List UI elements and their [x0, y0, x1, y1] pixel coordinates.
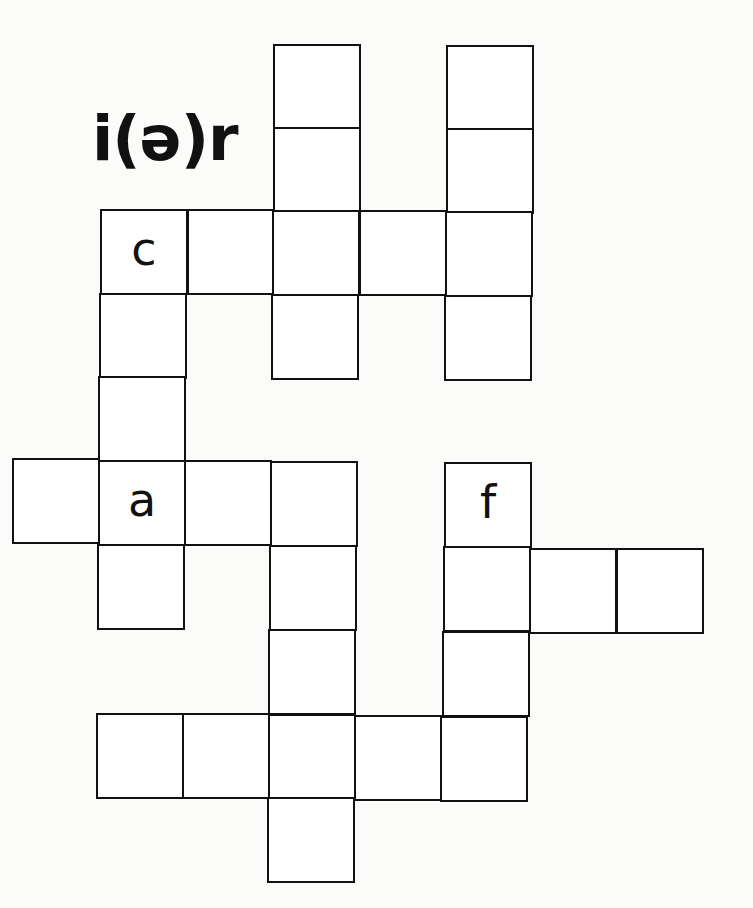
crossword-cell[interactable]	[270, 461, 358, 547]
crossword-cell[interactable]	[273, 127, 361, 213]
crossword-cell[interactable]	[268, 714, 356, 800]
crossword-cell[interactable]	[99, 293, 187, 379]
crossword-cell[interactable]	[616, 548, 704, 634]
crossword-cell[interactable]	[354, 715, 442, 801]
crossword-cell-prefilled: f	[444, 462, 532, 548]
crossword-grid: caf	[0, 0, 753, 908]
crossword-cell[interactable]	[445, 211, 533, 297]
crossword-cell[interactable]	[97, 544, 185, 630]
crossword-cell[interactable]	[96, 713, 184, 799]
crossword-cell[interactable]	[529, 548, 617, 634]
crossword-cell[interactable]	[444, 295, 532, 381]
crossword-cell[interactable]	[440, 716, 528, 802]
crossword-cell[interactable]	[184, 460, 272, 546]
crossword-cell[interactable]	[267, 797, 355, 883]
crossword-cell[interactable]	[446, 45, 534, 131]
crossword-cell[interactable]	[271, 294, 359, 380]
crossword-cell[interactable]	[442, 631, 530, 717]
crossword-cell-prefilled: a	[98, 460, 186, 546]
crossword-cell[interactable]	[359, 210, 447, 296]
crossword-cell[interactable]	[273, 44, 361, 130]
crossword-cell[interactable]	[182, 713, 270, 799]
crossword-cell[interactable]	[272, 210, 360, 296]
crossword-cell[interactable]	[187, 209, 275, 295]
crossword-cell[interactable]	[12, 458, 100, 544]
crossword-cell-prefilled: c	[100, 209, 188, 295]
crossword-cell[interactable]	[98, 376, 186, 462]
crossword-cell[interactable]	[443, 546, 531, 632]
crossword-cell[interactable]	[269, 545, 357, 631]
crossword-cell[interactable]	[268, 629, 356, 715]
crossword-cell[interactable]	[446, 128, 534, 214]
